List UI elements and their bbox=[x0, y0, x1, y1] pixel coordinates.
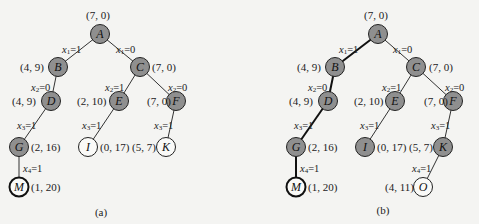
edge-label-a-E-I: x3=1 bbox=[81, 120, 101, 133]
node-b-K: K (5, 7) bbox=[409, 138, 453, 157]
node-b-C: C (7, 0) bbox=[407, 58, 454, 77]
svg-text:A: A bbox=[95, 27, 104, 41]
node-a-G: G (2, 16) bbox=[10, 138, 61, 157]
edge-label-b-E-I: x3=1 bbox=[359, 120, 379, 133]
svg-text:E: E bbox=[114, 94, 123, 108]
node-b-F: F (7, 0) bbox=[424, 92, 463, 111]
svg-text:C: C bbox=[412, 60, 421, 74]
svg-text:D: D bbox=[323, 94, 333, 108]
node-b-O: O (4, 11) bbox=[385, 178, 433, 197]
node-value: (4, 11) bbox=[385, 181, 414, 194]
edge-label-b-K-O: x4=1 bbox=[411, 163, 431, 176]
edge-label-a-F-K: x3=1 bbox=[153, 120, 173, 133]
node-b-I: I (0, 17) bbox=[356, 138, 407, 157]
edge-label-a-A-B: x1=1 bbox=[61, 44, 81, 57]
node-value: (1, 20) bbox=[308, 181, 338, 194]
node-value: (0, 17) bbox=[377, 141, 407, 154]
node-value: (7, 0) bbox=[429, 61, 453, 74]
edge-label-b-D-G: x3=1 bbox=[293, 120, 313, 133]
node-b-A: A (7, 0) bbox=[364, 9, 388, 44]
svg-text:G: G bbox=[292, 140, 301, 154]
node-a-F: F (7, 0) bbox=[147, 92, 186, 111]
node-b-G: G (2, 16) bbox=[287, 138, 338, 157]
node-a-C: C (7, 0) bbox=[131, 58, 177, 77]
node-a-M: M (1, 20) bbox=[10, 178, 61, 197]
svg-text:K: K bbox=[161, 140, 171, 154]
node-value: (4, 9) bbox=[289, 95, 313, 108]
node-a-D: D (4, 9) bbox=[12, 92, 61, 111]
node-value: (7, 0) bbox=[86, 9, 110, 22]
svg-text:G: G bbox=[15, 140, 24, 154]
node-value: (0, 17) bbox=[100, 141, 130, 154]
node-value: (5, 7) bbox=[132, 141, 156, 154]
svg-text:F: F bbox=[171, 94, 180, 108]
svg-text:K: K bbox=[438, 140, 448, 154]
edge-label-b-G-M: x4=1 bbox=[299, 163, 319, 176]
branch-and-bound-figure: x1=1 x1=0 x2=0 x2=1 x2=0 x3=1 x3=1 x3=1 … bbox=[0, 0, 479, 224]
node-value: (7, 0) bbox=[147, 95, 171, 108]
svg-text:F: F bbox=[448, 94, 457, 108]
edge-label-b-F-K: x3=1 bbox=[430, 120, 450, 133]
edge-label-b-A-C: x1=0 bbox=[392, 44, 412, 57]
edge-label-a-G-M: x4=1 bbox=[22, 163, 42, 176]
node-a-I: I (0, 17) bbox=[79, 138, 130, 157]
node-b-D: D (4, 9) bbox=[289, 92, 338, 111]
node-value: (7, 0) bbox=[364, 9, 388, 22]
panel-a: x1=1 x1=0 x2=0 x2=1 x2=0 x3=1 x3=1 x3=1 … bbox=[10, 9, 188, 219]
svg-text:M: M bbox=[13, 180, 25, 194]
node-a-K: K (5, 7) bbox=[132, 138, 176, 157]
svg-text:B: B bbox=[54, 60, 62, 74]
edge-label-a-D-G: x3=1 bbox=[16, 120, 36, 133]
svg-text:C: C bbox=[136, 60, 145, 74]
svg-text:D: D bbox=[46, 94, 56, 108]
node-value: (7, 0) bbox=[424, 95, 448, 108]
node-a-B: B (4, 9) bbox=[20, 58, 68, 77]
node-value: (2, 16) bbox=[31, 141, 61, 154]
svg-text:O: O bbox=[419, 180, 428, 194]
caption-b: (b) bbox=[377, 204, 390, 217]
node-b-E: E (2, 10) bbox=[354, 92, 405, 111]
node-a-A: A (7, 0) bbox=[86, 9, 110, 44]
svg-text:A: A bbox=[373, 27, 382, 41]
svg-text:B: B bbox=[331, 60, 339, 74]
edge-label-b-A-B: x1=1 bbox=[338, 44, 358, 57]
node-value: (4, 9) bbox=[20, 61, 44, 74]
panel-b: x1=1 x1=0 x2=0 x2=1 x2=0 x3=1 x3=1 x3=1 … bbox=[287, 9, 465, 217]
node-b-B: B (4, 9) bbox=[297, 58, 345, 77]
node-value: (1, 20) bbox=[31, 181, 61, 194]
node-value: (2, 16) bbox=[308, 141, 338, 154]
node-value: (7, 0) bbox=[152, 61, 176, 74]
node-a-E: E (2, 10) bbox=[77, 92, 129, 111]
caption-a: (a) bbox=[95, 206, 108, 219]
svg-text:M: M bbox=[290, 180, 302, 194]
node-b-M: M (1, 20) bbox=[287, 178, 338, 197]
node-value: (4, 9) bbox=[297, 61, 321, 74]
svg-text:E: E bbox=[390, 94, 399, 108]
node-value: (4, 9) bbox=[12, 95, 36, 108]
node-value: (2, 10) bbox=[354, 95, 384, 108]
node-value: (5, 7) bbox=[409, 141, 433, 154]
node-value: (2, 10) bbox=[77, 95, 107, 108]
edge-label-a-A-C: x1=0 bbox=[115, 44, 135, 57]
